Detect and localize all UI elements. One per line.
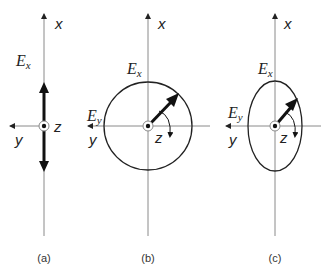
ey-label: Ey [86, 107, 102, 126]
panel-a: x y z Ex (a) [10, 14, 63, 264]
z-dot-icon [42, 124, 46, 128]
x-axis-label: x [283, 15, 292, 32]
field-vector-arrowhead-icon [285, 98, 298, 111]
arrowhead-up-icon [39, 82, 49, 93]
caption-b: (b) [141, 252, 154, 264]
z-axis-label: z [279, 129, 288, 146]
y-axis-label: y [228, 131, 238, 148]
x-axis-label: x [157, 15, 166, 32]
z-axis-label: z [53, 118, 62, 135]
caption-a: (a) [37, 252, 50, 264]
arrowhead-down-icon [39, 161, 49, 172]
z-dot-icon [273, 124, 277, 128]
ey-label: Ey [227, 104, 243, 123]
y-axis-label: y [14, 131, 24, 148]
caption-c: (c) [269, 252, 282, 264]
panel-c: x y Ex Ey z (c) [226, 14, 321, 264]
ex-label: Ex [15, 52, 31, 71]
z-axis-label: z [154, 129, 163, 146]
ex-label: Ex [126, 60, 142, 79]
z-dot-icon [146, 124, 150, 128]
y-axis-label: y [88, 131, 98, 148]
panel-b: x y Ex Ey z (b) [86, 14, 210, 264]
ex-label: Ex [257, 60, 273, 79]
x-axis-label: x [54, 15, 63, 32]
polarization-diagram: x y z Ex (a) x y Ex Ey z (b) x y Ex Ey [0, 0, 326, 272]
